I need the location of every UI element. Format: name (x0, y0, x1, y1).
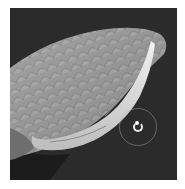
mesh-render (10, 8, 177, 180)
brush-center-dot (135, 121, 139, 125)
sculpt-viewport[interactable] (10, 8, 177, 180)
brush-cursor (119, 108, 157, 146)
